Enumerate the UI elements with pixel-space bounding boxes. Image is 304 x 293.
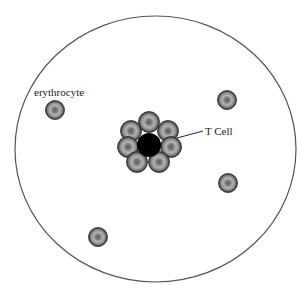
t-cell-label: T Cell [205,125,233,137]
erythrocyte-label: erythrocyte [34,86,84,98]
t-cell-leader-line [177,131,203,138]
erythrocyte [46,101,65,120]
diagram-canvas: erythrocyte T Cell [0,0,304,293]
erythrocyte [89,228,108,247]
erythrocyte [219,174,238,193]
t-cell-body [137,133,161,157]
erythrocyte [218,91,237,110]
